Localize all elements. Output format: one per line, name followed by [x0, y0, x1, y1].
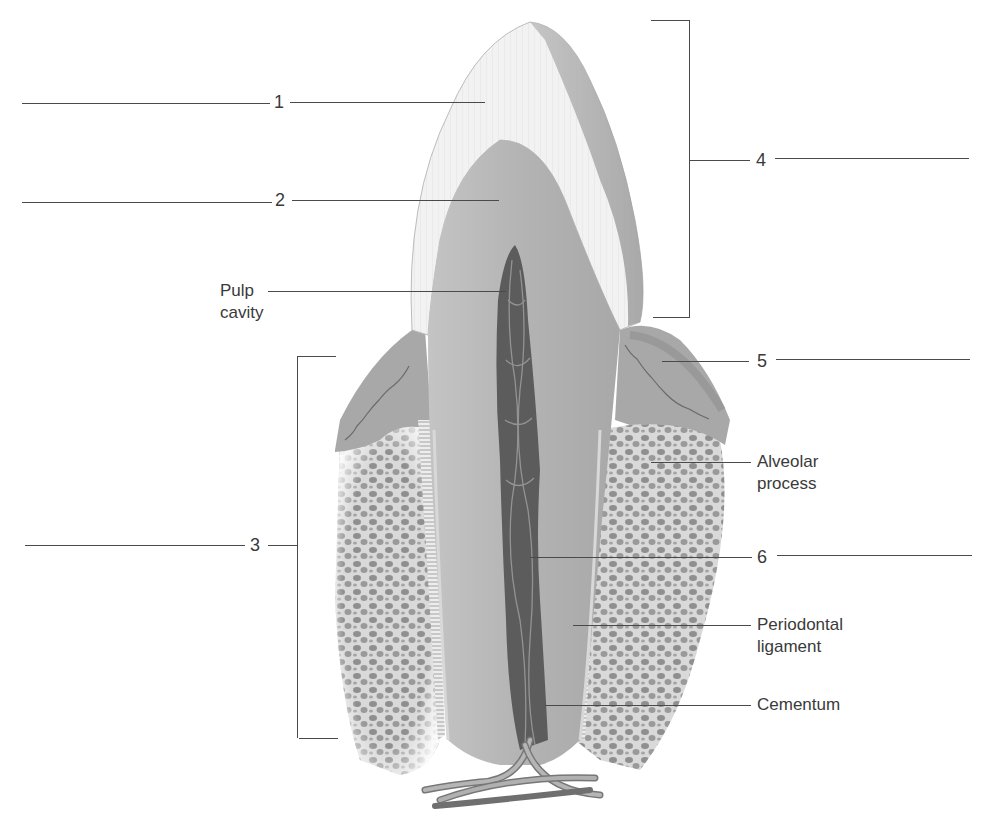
leader-line-2-left	[22, 202, 272, 203]
leader-line-cementum	[545, 705, 751, 706]
label-1: 1	[274, 92, 284, 112]
leader-line-pulp	[268, 291, 506, 292]
bracket-4-top	[651, 20, 690, 21]
leader-line-periodontal	[573, 625, 751, 626]
leader-line-1-right	[290, 102, 485, 103]
label-3: 3	[250, 535, 260, 555]
tooth-diagram: 1 2 3 4 5 6 Pulp cavity Alveolar process…	[0, 0, 991, 824]
leader-line-4-right	[775, 158, 969, 159]
label-6: 6	[757, 547, 767, 567]
label-cementum: Cementum	[757, 694, 840, 716]
leader-line-5-left	[662, 361, 749, 362]
label-5: 5	[757, 351, 767, 371]
label-periodontal-ligament: Periodontal ligament	[757, 614, 843, 658]
label-pulp-cavity: Pulp cavity	[220, 280, 263, 324]
leader-line-2-right	[292, 200, 499, 201]
leader-line-1-left	[22, 103, 270, 104]
leader-line-3-left	[25, 545, 245, 546]
bracket-3-bottom	[299, 738, 338, 739]
bracket-3-top	[297, 356, 336, 357]
tooth-illustration	[0, 0, 991, 824]
leader-line-6-left	[530, 557, 752, 558]
bracket-4-vertical	[689, 20, 690, 318]
label-2: 2	[275, 190, 285, 210]
leader-line-4-left	[690, 160, 750, 161]
leader-line-5-right	[776, 359, 970, 360]
leader-line-3-right	[268, 545, 298, 546]
label-4: 4	[756, 150, 766, 170]
bracket-4-bottom	[653, 317, 690, 318]
bracket-3-vertical	[297, 356, 298, 738]
leader-line-6-right	[777, 555, 972, 556]
leader-line-alveolar	[651, 462, 751, 463]
label-alveolar-process: Alveolar process	[757, 451, 818, 495]
